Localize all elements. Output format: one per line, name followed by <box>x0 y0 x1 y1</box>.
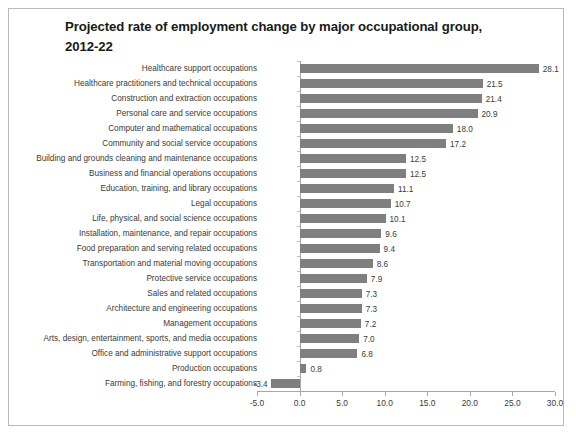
bar-value-label: 9.6 <box>385 230 396 239</box>
x-axis-tick-label: 30.0 <box>547 398 563 408</box>
bar <box>300 214 386 223</box>
axis-minor-tick <box>297 106 300 107</box>
bar-plot-region: 28.121.521.420.918.017.212.512.511.110.7… <box>257 61 555 391</box>
axis-minor-tick <box>297 181 300 182</box>
bar <box>300 169 406 178</box>
category-label: Sales and related occupations <box>147 290 257 298</box>
bar <box>300 154 406 163</box>
category-label: Arts, design, entertainment, sports, and… <box>44 335 257 343</box>
bar <box>300 229 382 238</box>
category-label: Computer and mathematical occupations <box>108 125 257 133</box>
category-label: Education, training, and library occupat… <box>100 185 257 193</box>
bar <box>300 79 483 88</box>
axis-minor-tick <box>297 226 300 227</box>
category-label: Production occupations <box>172 365 257 373</box>
category-label: Life, physical, and social science occup… <box>92 215 257 223</box>
bar <box>300 319 361 328</box>
bar <box>300 259 373 268</box>
category-label: Farming, fishing, and forestry occupatio… <box>105 380 257 388</box>
bar <box>300 139 446 148</box>
axis-minor-tick <box>297 361 300 362</box>
axis-minor-tick <box>297 241 300 242</box>
x-axis-line <box>257 391 555 392</box>
category-label: Personal care and service occupations <box>116 110 257 118</box>
x-axis-tick-label: 5.0 <box>336 398 348 408</box>
axis-minor-tick <box>297 376 300 377</box>
x-axis-tick <box>470 392 471 396</box>
bar-value-label: 9.4 <box>384 245 395 254</box>
category-label: Protective service occupations <box>146 275 257 283</box>
x-axis-tick <box>257 392 258 396</box>
category-label: Food preparation and serving related occ… <box>77 245 257 253</box>
x-axis-tick-label: 25.0 <box>504 398 520 408</box>
category-label: Installation, maintenance, and repair oc… <box>79 230 257 238</box>
category-label: Building and grounds cleaning and mainte… <box>36 155 257 163</box>
bar-value-label: 28.1 <box>543 65 559 74</box>
axis-minor-tick <box>297 301 300 302</box>
x-axis-tick-label: 10.0 <box>377 398 393 408</box>
bar <box>300 349 358 358</box>
x-axis-tick <box>555 392 556 396</box>
category-label: Architecture and engineering occupations <box>106 305 257 313</box>
bar <box>300 199 391 208</box>
category-label: Construction and extraction occupations <box>111 95 257 103</box>
bar-value-label: 21.5 <box>487 80 503 89</box>
bar-value-label: 18.0 <box>457 125 473 134</box>
axis-minor-tick <box>297 166 300 167</box>
category-label-column: Healthcare support occupationsHealthcare… <box>9 61 257 391</box>
bar <box>300 334 360 343</box>
category-label: Business and financial operations occupa… <box>89 170 257 178</box>
bar-value-label: 7.3 <box>366 305 377 314</box>
bar <box>300 94 482 103</box>
x-axis-tick <box>427 392 428 396</box>
category-label: Community and social service occupations <box>102 140 257 148</box>
bar <box>300 364 307 373</box>
x-axis-tick <box>385 392 386 396</box>
bar <box>300 184 395 193</box>
category-label: Management occupations <box>163 320 257 328</box>
axis-minor-tick <box>297 91 300 92</box>
axis-minor-tick <box>297 151 300 152</box>
bar <box>300 124 453 133</box>
bar-value-label: 7.9 <box>371 275 382 284</box>
x-axis-tick <box>300 392 301 396</box>
bar-value-label: 7.2 <box>365 320 376 329</box>
bar-value-label: 10.1 <box>390 215 406 224</box>
bar-value-label: 7.3 <box>366 290 377 299</box>
bar-value-label: 12.5 <box>410 155 426 164</box>
bar-value-label: 7.0 <box>363 335 374 344</box>
x-axis-tick <box>512 392 513 396</box>
bar-value-label: 8.6 <box>377 260 388 269</box>
bar-value-label: 17.2 <box>450 140 466 149</box>
chart-frame: Projected rate of employment change by m… <box>8 8 564 426</box>
axis-minor-tick <box>297 316 300 317</box>
axis-minor-tick <box>297 331 300 332</box>
bar <box>271 379 300 388</box>
chart-title: Projected rate of employment change by m… <box>65 17 510 58</box>
axis-minor-tick <box>297 286 300 287</box>
x-axis-tick <box>342 392 343 396</box>
x-axis-tick-label: 20.0 <box>462 398 478 408</box>
category-label: Healthcare practitioners and technical o… <box>74 80 257 88</box>
x-axis-tick-label: -5.0 <box>250 398 264 408</box>
bar <box>300 274 367 283</box>
axis-minor-tick <box>297 121 300 122</box>
bar <box>300 109 478 118</box>
bar <box>300 244 380 253</box>
axis-minor-tick <box>297 61 300 62</box>
plot-area: Healthcare support occupationsHealthcare… <box>9 61 565 427</box>
bar <box>300 64 539 73</box>
bar-value-label: 10.7 <box>395 200 411 209</box>
bar-value-label: -3.4 <box>254 380 268 389</box>
bar-value-label: 21.4 <box>486 95 502 104</box>
bar <box>300 289 362 298</box>
axis-minor-tick <box>297 346 300 347</box>
axis-minor-tick <box>297 76 300 77</box>
bar-value-label: 20.9 <box>482 110 498 119</box>
category-label: Legal occupations <box>191 200 257 208</box>
axis-minor-tick <box>297 136 300 137</box>
bar-value-label: 12.5 <box>410 170 426 179</box>
bar-value-label: 0.8 <box>310 365 321 374</box>
axis-minor-tick <box>297 196 300 197</box>
bar-value-label: 11.1 <box>398 185 413 194</box>
